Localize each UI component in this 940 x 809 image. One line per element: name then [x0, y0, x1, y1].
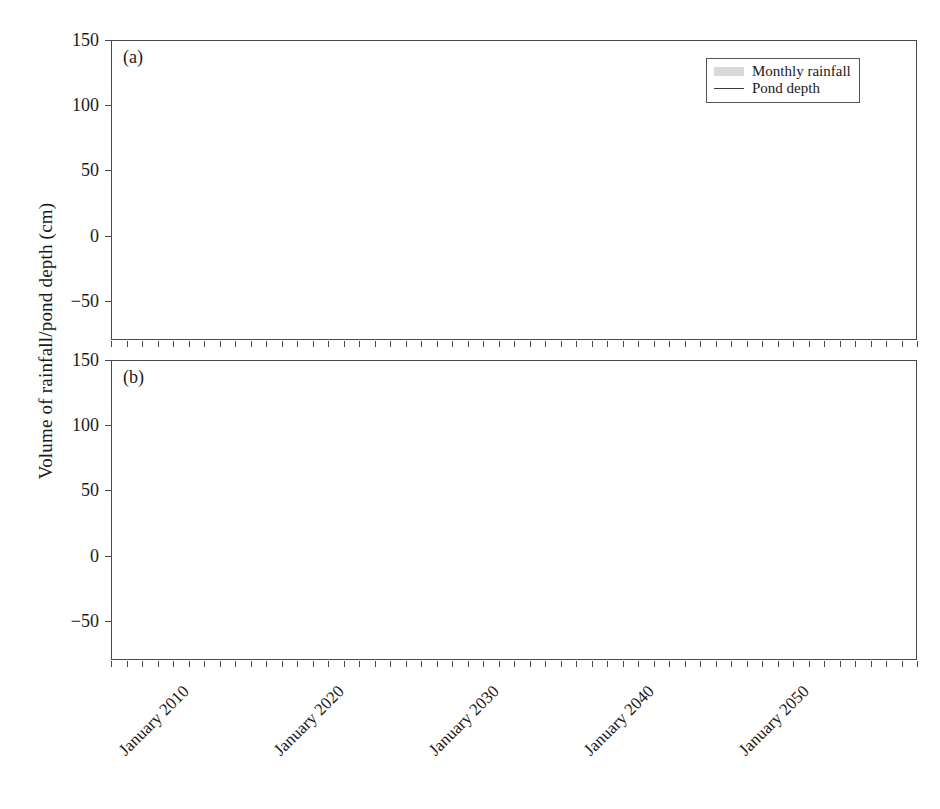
legend: Monthly rainfall Pond depth — [706, 58, 860, 103]
x-tick-mark — [189, 341, 190, 347]
x-tick-mark — [809, 661, 810, 667]
x-tick-mark — [607, 661, 608, 667]
x-tick-label: January 2050 — [735, 682, 814, 761]
y-tick-mark — [105, 360, 111, 361]
x-tick-mark — [855, 661, 856, 667]
x-tick-mark — [111, 341, 112, 347]
x-tick-mark — [220, 661, 221, 667]
legend-label-pond-depth: Pond depth — [752, 81, 820, 96]
x-tick-mark — [561, 341, 562, 347]
x-tick-mark — [359, 341, 360, 347]
y-tick-mark — [105, 425, 111, 426]
x-tick-mark — [328, 341, 329, 347]
x-tick-mark — [127, 341, 128, 347]
panel-b-tag: (b) — [123, 367, 144, 388]
x-tick-mark — [700, 661, 701, 667]
x-tick-mark — [437, 661, 438, 667]
x-tick-mark — [266, 661, 267, 667]
x-tick-mark — [235, 661, 236, 667]
x-tick-mark — [592, 341, 593, 347]
x-tick-mark — [204, 341, 205, 347]
x-tick-mark — [824, 661, 825, 667]
y-tick-mark — [105, 40, 111, 41]
x-tick-mark — [421, 661, 422, 667]
rainfall-swatch-icon — [714, 67, 744, 76]
y-tick-label: 100 — [72, 415, 99, 436]
x-tick-mark — [297, 341, 298, 347]
x-tick-mark — [375, 661, 376, 667]
x-tick-mark — [778, 661, 779, 667]
x-tick-mark — [700, 341, 701, 347]
x-tick-mark — [421, 341, 422, 347]
x-tick-mark — [158, 341, 159, 347]
y-tick-label: 150 — [72, 350, 99, 371]
x-tick-mark — [468, 661, 469, 667]
x-tick-mark — [716, 341, 717, 347]
x-tick-mark — [359, 661, 360, 667]
x-tick-mark — [142, 661, 143, 667]
panel-b: (b) — [111, 360, 917, 660]
x-tick-mark — [747, 341, 748, 347]
x-tick-mark — [855, 341, 856, 347]
x-tick-mark — [344, 341, 345, 347]
x-tick-mark — [762, 661, 763, 667]
x-tick-mark — [545, 661, 546, 667]
x-tick-mark — [173, 661, 174, 667]
x-tick-mark — [483, 661, 484, 667]
x-tick-mark — [452, 341, 453, 347]
y-tick-mark — [105, 490, 111, 491]
legend-entry-pond-depth: Pond depth — [714, 80, 851, 97]
x-tick-mark — [530, 661, 531, 667]
x-tick-mark — [840, 341, 841, 347]
x-tick-mark — [390, 661, 391, 667]
x-tick-mark — [251, 341, 252, 347]
y-tick-label: 100 — [72, 95, 99, 116]
x-tick-mark — [266, 341, 267, 347]
x-tick-mark — [282, 661, 283, 667]
x-tick-mark — [824, 341, 825, 347]
x-tick-mark — [576, 341, 577, 347]
x-tick-mark — [406, 341, 407, 347]
x-tick-label: January 2020 — [270, 682, 349, 761]
x-tick-mark — [514, 661, 515, 667]
x-tick-label: January 2040 — [580, 682, 659, 761]
x-tick-mark — [390, 341, 391, 347]
x-tick-mark — [669, 661, 670, 667]
x-tick-mark — [483, 341, 484, 347]
x-tick-mark — [778, 341, 779, 347]
x-tick-mark — [437, 341, 438, 347]
x-tick-mark — [793, 341, 794, 347]
y-tick-label: 0 — [90, 545, 99, 566]
x-tick-mark — [313, 661, 314, 667]
x-tick-mark — [406, 661, 407, 667]
legend-entry-rainfall: Monthly rainfall — [714, 63, 851, 80]
x-tick-mark — [576, 661, 577, 667]
y-tick-mark — [105, 170, 111, 171]
x-tick-mark — [235, 341, 236, 347]
x-tick-mark — [902, 661, 903, 667]
x-tick-mark — [871, 341, 872, 347]
x-tick-mark — [623, 341, 624, 347]
x-tick-mark — [654, 661, 655, 667]
x-tick-mark — [638, 661, 639, 667]
x-tick-mark — [452, 661, 453, 667]
y-tick-mark — [105, 621, 111, 622]
x-tick-mark — [716, 661, 717, 667]
panel-b-frame — [111, 360, 917, 660]
x-tick-mark — [731, 661, 732, 667]
x-tick-mark — [840, 661, 841, 667]
x-tick-mark — [762, 341, 763, 347]
x-tick-mark — [731, 341, 732, 347]
y-tick-label: 150 — [72, 30, 99, 51]
x-tick-mark — [685, 661, 686, 667]
x-tick-mark — [111, 661, 112, 667]
x-tick-mark — [344, 661, 345, 667]
x-tick-mark — [902, 341, 903, 347]
x-tick-mark — [685, 341, 686, 347]
y-tick-label: 50 — [81, 160, 99, 181]
y-tick-mark — [105, 556, 111, 557]
x-tick-mark — [561, 661, 562, 667]
x-tick-mark — [917, 341, 918, 347]
x-tick-mark — [468, 341, 469, 347]
x-tick-mark — [809, 341, 810, 347]
